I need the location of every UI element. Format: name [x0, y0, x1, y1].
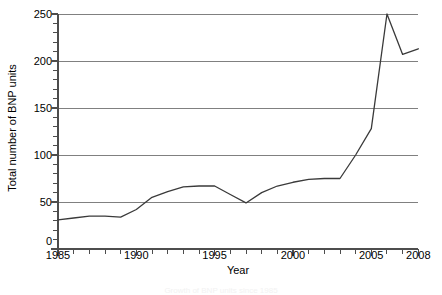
x-tick-label-1990: 1990 — [124, 249, 148, 261]
gridlines — [58, 14, 418, 202]
x-tick-label-1985: 1985 — [46, 249, 70, 261]
figure-caption: Growth of BNP units since 1985 — [0, 286, 442, 295]
x-axis-title: Year — [58, 264, 418, 276]
y-minor-ticks — [53, 23, 58, 239]
x-tick-label-2000: 2000 — [281, 249, 305, 261]
y-major-ticks — [51, 14, 58, 249]
data-line-series-1 — [58, 14, 418, 220]
x-tick-labels: 1985 1990 1995 2000 2005 2008 — [0, 249, 442, 263]
x-tick-label-2005: 2005 — [359, 249, 383, 261]
chart-figure: Total number of BNP units 250 200 150 10… — [0, 0, 442, 295]
x-tick-label-1995: 1995 — [202, 249, 226, 261]
x-tick-label-2008: 2008 — [406, 249, 430, 261]
